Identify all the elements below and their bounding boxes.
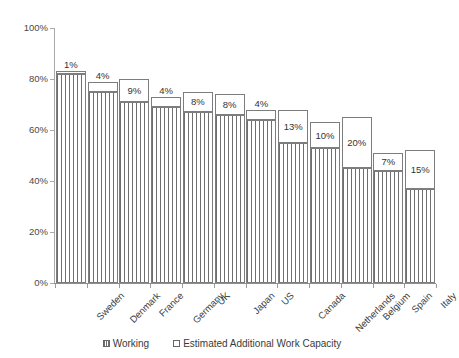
bar-segment-capacity[interactable] — [56, 71, 86, 74]
y-tick-mark — [50, 79, 54, 80]
x-tick-mark — [309, 284, 310, 288]
bar-group[interactable]: 7% — [373, 153, 403, 283]
x-tick-mark — [55, 284, 56, 288]
bar-group[interactable]: 4% — [246, 110, 276, 283]
y-tick-mark — [50, 28, 54, 29]
bar-group[interactable]: 13% — [278, 110, 308, 283]
bar-group[interactable]: 4% — [151, 97, 181, 283]
bar-data-label: 8% — [184, 96, 212, 107]
y-tick-label: 40% — [29, 176, 48, 186]
bar-data-label: 4% — [246, 98, 276, 109]
bar-group[interactable]: 20% — [342, 117, 372, 283]
bar-data-label: 1% — [56, 59, 86, 70]
bar-data-label: 10% — [311, 130, 339, 141]
bar-group[interactable]: 15% — [405, 150, 435, 283]
bar-segment-capacity[interactable]: 13% — [278, 110, 308, 143]
chart-legend: Working Estimated Additional Work Capaci… — [0, 338, 444, 349]
bar-data-label: 9% — [120, 85, 148, 96]
y-tick-mark — [50, 130, 54, 131]
bar-group[interactable]: 1% — [56, 71, 86, 283]
bar-segment-working[interactable] — [119, 102, 149, 283]
bar-segment-working[interactable] — [373, 171, 403, 283]
y-tick-label: 80% — [29, 74, 48, 84]
y-tick-mark — [50, 181, 54, 182]
bar-segment-working[interactable] — [246, 120, 276, 283]
bar-group[interactable]: 8% — [183, 92, 213, 283]
legend-label-working: Working — [113, 338, 150, 349]
bar-segment-capacity[interactable]: 15% — [405, 150, 435, 188]
bar-group[interactable]: 4% — [88, 82, 118, 283]
x-axis-category-label: Italy — [439, 290, 459, 310]
bar-segment-working[interactable] — [151, 107, 181, 283]
y-tick-label: 60% — [29, 125, 48, 135]
y-tick-mark — [50, 232, 54, 233]
x-tick-mark — [436, 284, 437, 288]
x-tick-mark — [404, 284, 405, 288]
x-axis-category-label: Sweden — [94, 290, 126, 322]
bar-data-label: 4% — [151, 85, 181, 96]
x-axis-category-label: Japan — [251, 290, 277, 316]
bar-segment-capacity[interactable] — [151, 97, 181, 107]
x-tick-mark — [246, 284, 247, 288]
bar-segment-working[interactable] — [183, 112, 213, 283]
bar-segment-working[interactable] — [56, 74, 86, 283]
bar-group[interactable]: 9% — [119, 79, 149, 283]
bar-data-label: 15% — [406, 164, 434, 175]
bar-segment-capacity[interactable] — [88, 82, 118, 92]
bar-segment-capacity[interactable]: 7% — [373, 153, 403, 171]
bar-segment-capacity[interactable] — [246, 110, 276, 120]
x-tick-mark — [373, 284, 374, 288]
x-tick-mark — [150, 284, 151, 288]
bar-segment-capacity[interactable]: 10% — [310, 122, 340, 148]
bar-segment-working[interactable] — [405, 189, 435, 283]
bar-segment-working[interactable] — [278, 143, 308, 283]
y-tick-label: 20% — [29, 227, 48, 237]
x-tick-mark — [277, 284, 278, 288]
x-axis-category-label: Denmark — [127, 290, 162, 325]
striped-swatch-icon — [103, 340, 110, 347]
bar-segment-capacity[interactable]: 9% — [119, 79, 149, 102]
bar-segment-working[interactable] — [215, 115, 245, 283]
x-tick-mark — [341, 284, 342, 288]
empty-swatch-icon — [173, 340, 180, 347]
y-tick-label: 0% — [34, 278, 48, 288]
plot-area: 1%4%9%4%8%8%4%13%10%20%7%15% — [55, 28, 436, 283]
bar-segment-capacity[interactable]: 20% — [342, 117, 372, 168]
legend-item-capacity: Estimated Additional Work Capacity — [173, 338, 341, 349]
bar-segment-working[interactable] — [342, 168, 372, 283]
y-tick-mark — [50, 283, 54, 284]
bar-data-label: 7% — [374, 156, 402, 167]
x-axis-category-label: US — [279, 290, 296, 307]
x-axis-category-label: Spain — [409, 290, 434, 315]
bar-segment-capacity[interactable]: 8% — [215, 94, 245, 114]
y-tick-label: 100% — [24, 23, 48, 33]
bar-segment-working[interactable] — [310, 148, 340, 283]
x-tick-mark — [119, 284, 120, 288]
bar-group[interactable]: 8% — [215, 94, 245, 283]
bar-segment-capacity[interactable]: 8% — [183, 92, 213, 112]
bar-segment-working[interactable] — [88, 92, 118, 283]
bar-data-label: 8% — [216, 99, 244, 110]
legend-label-capacity: Estimated Additional Work Capacity — [183, 338, 341, 349]
x-axis-category-label: France — [156, 290, 185, 319]
bar-data-label: 13% — [279, 121, 307, 132]
bar-data-label: 20% — [343, 137, 371, 148]
y-axis: 100%80%60%40%20%0% — [10, 18, 48, 293]
x-tick-mark — [214, 284, 215, 288]
x-tick-mark — [87, 284, 88, 288]
legend-item-working: Working — [103, 338, 150, 349]
x-tick-mark — [182, 284, 183, 288]
bar-data-label: 4% — [88, 70, 118, 81]
bar-group[interactable]: 10% — [310, 122, 340, 283]
x-axis-category-label: Canada — [316, 290, 347, 321]
